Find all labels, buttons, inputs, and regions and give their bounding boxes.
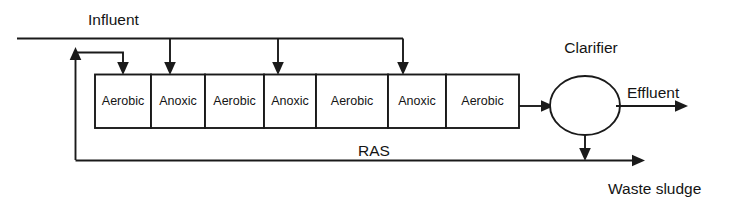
- clarifier-label: Clarifier: [564, 39, 617, 56]
- effluent-label: Effluent: [627, 84, 680, 101]
- clarifier-underflow-arrowhead: [579, 148, 591, 161]
- influent-drop-1-group: [164, 39, 176, 76]
- ras-label: RAS: [358, 142, 390, 159]
- clarifier-group: [550, 76, 620, 135]
- effluent-arrowhead: [675, 100, 688, 112]
- reactor-cell-6-label: Anoxic: [398, 94, 436, 108]
- reactor-cell-7-label: Aerobic: [461, 94, 503, 108]
- ras-branch-arrowhead: [117, 62, 129, 75]
- reactor-cell-4-label: Anoxic: [271, 94, 309, 108]
- reactor-cell-5-label: Aerobic: [331, 94, 373, 108]
- process-flow-diagram: Aerobic Anoxic Aerobic Anoxic Aerobic An…: [0, 0, 748, 208]
- ras-branch-line: [76, 53, 124, 67]
- ras-riser-arrowhead: [70, 47, 82, 60]
- flow-diagram-canvas: Aerobic Anoxic Aerobic Anoxic Aerobic An…: [0, 0, 748, 208]
- mixed-liquor-line-group: [519, 100, 554, 112]
- waste-sludge-arrowhead: [632, 155, 645, 167]
- reactor-train-group: Aerobic Anoxic Aerobic Anoxic Aerobic An…: [95, 75, 519, 129]
- reactor-cell-1-label: Aerobic: [102, 94, 144, 108]
- influent-drop-2-group: [272, 39, 284, 76]
- waste-sludge-line-group: [585, 155, 645, 167]
- influent-drop-3-group: [397, 39, 409, 76]
- clarifier-shape: [550, 76, 620, 135]
- influent-drop-3-arrowhead: [397, 62, 409, 75]
- effluent-line-group: [616, 100, 688, 112]
- reactor-cell-2-label: Anoxic: [159, 94, 197, 108]
- influent-label: Influent: [88, 11, 140, 28]
- clarifier-underflow-group: [579, 135, 591, 161]
- influent-drop-1-arrowhead: [164, 62, 176, 75]
- waste-sludge-label: Waste sludge: [608, 180, 701, 197]
- influent-drop-2-arrowhead: [272, 62, 284, 75]
- reactor-cell-3-label: Aerobic: [213, 94, 255, 108]
